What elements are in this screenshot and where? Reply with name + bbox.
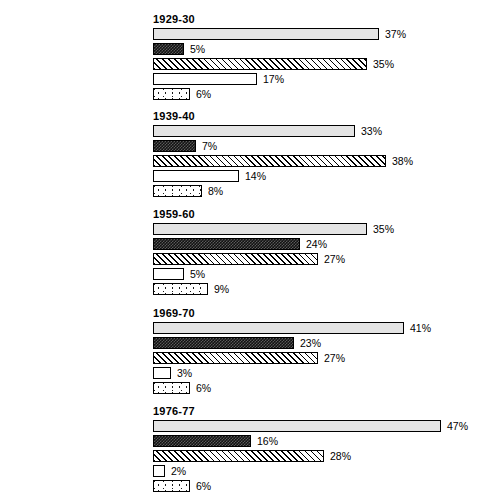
- bar-plain-white: [153, 367, 171, 379]
- bar-stipple-light: [153, 322, 404, 334]
- bar-stipple-light: [153, 420, 441, 432]
- bar-checker-dark: [153, 140, 196, 152]
- bar-checker-dark: [153, 337, 294, 349]
- bar-value-label: 7%: [202, 139, 217, 154]
- bar-value-label: 14%: [245, 169, 266, 184]
- bar-value-label: 37%: [385, 27, 406, 42]
- bar-diagonal-hatch: [153, 450, 324, 462]
- bar-value-label: 23%: [300, 336, 321, 351]
- bar-value-label: 5%: [190, 267, 205, 282]
- bar-plain-white: [153, 268, 184, 280]
- group-year-label: 1959-60: [153, 208, 195, 220]
- bar-scattered-dots: [153, 382, 190, 394]
- group-year-label: 1969-70: [153, 307, 195, 319]
- bar-value-label: 3%: [177, 366, 192, 381]
- bar-plain-white: [153, 465, 165, 477]
- bar-checker-dark: [153, 43, 184, 55]
- bar-stipple-light: [153, 223, 367, 235]
- bar-chart: 1929-30State & local governments37%Feder…: [0, 0, 481, 502]
- bar-value-label: 28%: [330, 449, 351, 464]
- bar-checker-dark: [153, 238, 300, 250]
- bar-value-label: 33%: [361, 124, 382, 139]
- bar-value-label: 6%: [196, 381, 211, 396]
- bar-value-label: 8%: [208, 184, 223, 199]
- bar-scattered-dots: [153, 283, 208, 295]
- bar-stipple-light: [153, 125, 355, 137]
- bar-value-label: 24%: [306, 237, 327, 252]
- bar-value-label: 2%: [171, 464, 186, 479]
- group-year-label: 1939-40: [153, 110, 195, 122]
- bar-value-label: 27%: [324, 252, 345, 267]
- bar-plain-white: [153, 170, 239, 182]
- bar-value-label: 6%: [196, 87, 211, 102]
- group-year-label: 1976-77: [153, 405, 195, 417]
- bar-diagonal-hatch: [153, 253, 318, 265]
- bar-checker-dark: [153, 435, 251, 447]
- bar-value-label: 17%: [263, 72, 284, 87]
- bar-value-label: 16%: [257, 434, 278, 449]
- bar-diagonal-hatch: [153, 352, 318, 364]
- bar-value-label: 35%: [373, 57, 394, 72]
- bar-plain-white: [153, 73, 257, 85]
- bar-scattered-dots: [153, 88, 190, 100]
- bar-value-label: 38%: [392, 154, 413, 169]
- bar-value-label: 41%: [410, 321, 431, 336]
- bar-value-label: 9%: [214, 282, 229, 297]
- bar-value-label: 5%: [190, 42, 205, 57]
- bar-scattered-dots: [153, 480, 190, 492]
- bar-diagonal-hatch: [153, 58, 367, 70]
- bar-value-label: 47%: [447, 419, 468, 434]
- bar-diagonal-hatch: [153, 155, 386, 167]
- group-year-label: 1929-30: [153, 13, 195, 25]
- bar-value-label: 6%: [196, 479, 211, 494]
- bar-scattered-dots: [153, 185, 202, 197]
- bar-value-label: 35%: [373, 222, 394, 237]
- bar-value-label: 27%: [324, 351, 345, 366]
- bar-stipple-light: [153, 28, 379, 40]
